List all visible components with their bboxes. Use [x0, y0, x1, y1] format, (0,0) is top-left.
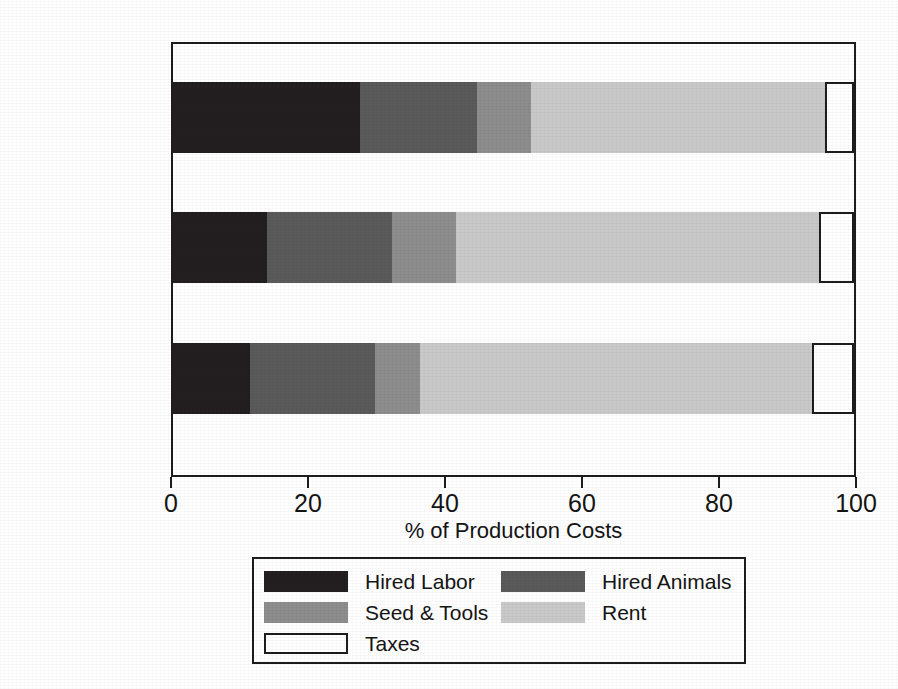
- legend-spacer: [501, 628, 738, 659]
- x-axis-tick-label-40: 40: [431, 491, 459, 516]
- x-axis-tick-20: [307, 477, 309, 488]
- x-axis-tick-100: [855, 477, 857, 488]
- bar-segment-taxes: [819, 212, 854, 283]
- legend-swatch-hired-animals: [501, 571, 585, 592]
- bar-segment-seed-and-tools: [392, 212, 457, 283]
- bar-segment-rent: [456, 212, 818, 283]
- x-axis-tick-0: [170, 477, 172, 488]
- legend-label-hired-labor: Hired Labor: [365, 571, 475, 592]
- legend: Hired LaborHired AnimalsSeed & ToolsRent…: [252, 557, 746, 664]
- x-axis-tick-label-80: 80: [705, 491, 733, 516]
- legend-swatch-seed-tools: [264, 602, 348, 623]
- bar-segment-rent: [420, 343, 812, 414]
- legend-item-seed-tools[interactable]: Seed & Tools: [264, 597, 501, 628]
- bar-segment-hired-animals: [250, 343, 375, 414]
- x-axis-tick-label-20: 20: [294, 491, 322, 516]
- bar-segment-taxes: [825, 82, 854, 153]
- bar-segment-hired-animals: [267, 212, 392, 283]
- legend-item-hired-labor[interactable]: Hired Labor: [264, 566, 501, 597]
- legend-item-hired-animals[interactable]: Hired Animals: [501, 566, 738, 597]
- stacked-bar-rich-tenant: [173, 82, 854, 153]
- legend-swatch-rent: [501, 602, 585, 623]
- bar-segment-hired-animals: [360, 82, 478, 153]
- legend-label-taxes: Taxes: [365, 633, 420, 654]
- x-axis-tick-60: [581, 477, 583, 488]
- x-axis-tick-label-0: 0: [164, 491, 178, 516]
- x-axis-tick-label-60: 60: [568, 491, 596, 516]
- chart-figure: Rich Tenant Middle Tenant Poor Tenant 02…: [0, 0, 898, 689]
- x-axis-title: % of Production Costs: [171, 518, 856, 544]
- legend-label-hired-animals: Hired Animals: [602, 571, 732, 592]
- bar-segment-seed-and-tools: [375, 343, 420, 414]
- bar-segment-rent: [531, 82, 825, 153]
- bar-segment-hired-labor: [173, 212, 267, 283]
- legend-swatch-hired-labor: [264, 571, 348, 592]
- legend-label-rent: Rent: [602, 602, 646, 623]
- legend-item-rent[interactable]: Rent: [501, 597, 738, 628]
- x-axis: 020406080100: [171, 477, 856, 478]
- bar-segment-hired-labor: [173, 343, 250, 414]
- x-axis-tick-label-100: 100: [835, 491, 877, 516]
- legend-swatch-taxes: [264, 633, 348, 654]
- plot-area: [171, 42, 856, 477]
- stacked-bar-poor-tenant: [173, 343, 854, 414]
- legend-label-seed-tools: Seed & Tools: [365, 602, 488, 623]
- bar-segment-seed-and-tools: [477, 82, 530, 153]
- bar-segment-taxes: [812, 343, 854, 414]
- legend-items: Hired LaborHired AnimalsSeed & ToolsRent…: [264, 566, 738, 659]
- x-axis-tick-80: [718, 477, 720, 488]
- stacked-bar-middle-tenant: [173, 212, 854, 283]
- bar-segment-hired-labor: [173, 82, 360, 153]
- x-axis-tick-40: [444, 477, 446, 488]
- legend-item-taxes[interactable]: Taxes: [264, 628, 501, 659]
